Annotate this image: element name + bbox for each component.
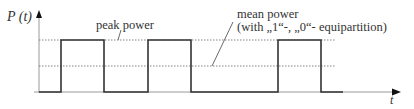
- peak-power-label: peak power: [96, 18, 155, 32]
- x-axis-label: t: [390, 93, 394, 107]
- mean-power-note: (with „1“-, „0“- equipartition): [237, 20, 387, 34]
- power-diagram: P (t) t peak power mean power (with „1“-…: [0, 0, 414, 109]
- y-axis-label: P (t): [6, 9, 32, 25]
- mean-leader: [212, 22, 233, 66]
- y-axis-arrow-icon: [36, 10, 42, 18]
- x-axis-arrow-icon: [392, 89, 401, 96]
- mean-power-label: mean power: [237, 7, 299, 21]
